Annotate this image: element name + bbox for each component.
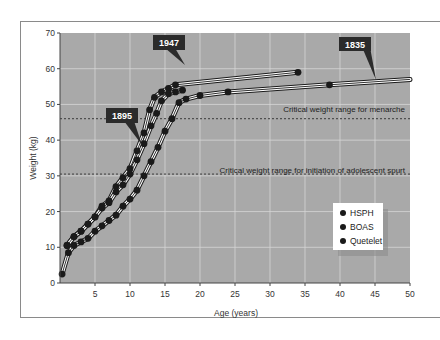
- legend-dot-icon: [340, 224, 346, 230]
- x-tick-label: 50: [405, 289, 415, 299]
- legend: HSPH BOAS Quetelet: [333, 203, 388, 256]
- callout-1947-label: 1947: [159, 38, 179, 48]
- x-tick-label: 5: [93, 289, 98, 299]
- menarche-annotation: Critical weight range for menarche: [283, 105, 405, 114]
- legend-quetelet: Quetelet: [350, 236, 383, 246]
- x-axis-title: Age (years): [214, 308, 258, 318]
- x-tick-label: 30: [265, 289, 275, 299]
- y-tick-label: 60: [46, 64, 56, 74]
- y-tick-label: 0: [50, 278, 55, 288]
- y-tick-label: 70: [46, 28, 56, 38]
- y-tick-label: 30: [46, 171, 56, 181]
- x-tick-label: 10: [125, 289, 135, 299]
- x-tick-label: 25: [230, 289, 240, 299]
- spurt-annotation: Critical weight range for initiation of …: [220, 166, 406, 175]
- callout-1895-label: 1895: [112, 111, 132, 121]
- y-tick-label: 10: [46, 242, 56, 252]
- x-tick-label: 15: [160, 289, 170, 299]
- y-axis-title: Weight (kg): [28, 136, 38, 179]
- legend-dot-icon: [340, 238, 346, 244]
- x-tick-label: 20: [195, 289, 205, 299]
- x-tick-label: 45: [370, 289, 380, 299]
- callout-1835-label: 1835: [345, 40, 365, 50]
- legend-hsph: HSPH: [350, 208, 374, 218]
- y-tick-label: 20: [46, 207, 56, 217]
- legend-boas: BOAS: [350, 222, 374, 232]
- x-tick-label: 35: [300, 289, 310, 299]
- y-tick-label: 50: [46, 99, 56, 109]
- y-tick-label: 40: [46, 135, 56, 145]
- x-tick-label: 40: [335, 289, 345, 299]
- legend-dot-icon: [340, 210, 346, 216]
